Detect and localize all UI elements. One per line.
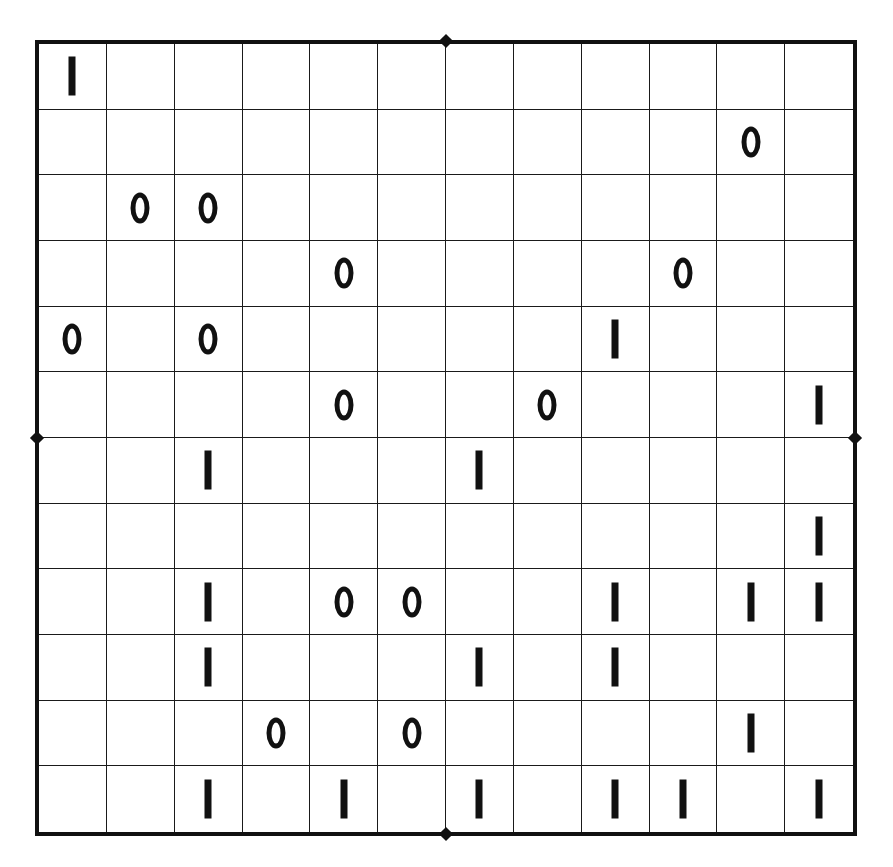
grid-cell[interactable] [378,307,446,373]
grid-cell[interactable]: 0 [378,569,446,635]
grid-cell[interactable] [446,44,514,110]
grid-cell[interactable] [310,175,378,241]
grid-cell[interactable] [582,438,650,504]
grid-cell[interactable] [243,766,311,832]
grid-cell[interactable]: 1 [446,438,514,504]
grid-cell[interactable] [378,504,446,570]
grid-cell[interactable] [39,766,107,832]
grid-cell[interactable]: 1 [446,635,514,701]
grid-cell[interactable] [717,307,785,373]
grid-cell[interactable] [650,175,718,241]
grid-cell[interactable] [378,372,446,438]
grid-cell[interactable] [378,175,446,241]
grid-cell[interactable] [785,175,853,241]
grid-cell[interactable] [310,504,378,570]
grid-cell[interactable] [514,175,582,241]
grid-cell[interactable] [717,504,785,570]
grid-cell[interactable] [107,504,175,570]
grid-cell[interactable]: 1 [582,766,650,832]
grid-cell[interactable] [243,44,311,110]
grid-cell[interactable]: 0 [310,241,378,307]
grid-cell[interactable] [175,504,243,570]
grid-cell[interactable] [39,110,107,176]
grid-cell[interactable] [310,438,378,504]
grid-cell[interactable] [446,701,514,767]
grid-cell[interactable]: 1 [582,307,650,373]
grid-cell[interactable] [107,307,175,373]
grid-cell[interactable] [107,701,175,767]
grid-cell[interactable]: 0 [310,372,378,438]
grid-cell[interactable] [446,110,514,176]
grid-cell[interactable] [378,110,446,176]
grid-cell[interactable] [650,504,718,570]
grid-cell[interactable] [785,635,853,701]
grid-cell[interactable] [310,307,378,373]
grid-cell[interactable]: 0 [107,175,175,241]
grid-cell[interactable] [39,635,107,701]
grid-cell[interactable]: 1 [785,372,853,438]
grid-cell[interactable] [107,44,175,110]
grid-cell[interactable]: 0 [175,175,243,241]
grid-cell[interactable] [717,438,785,504]
grid-cell[interactable]: 1 [785,766,853,832]
grid-cell[interactable] [107,372,175,438]
grid-cell[interactable] [650,110,718,176]
grid-cell[interactable]: 1 [717,701,785,767]
grid-cell[interactable] [243,372,311,438]
grid-cell[interactable] [378,766,446,832]
grid-cell[interactable] [39,701,107,767]
grid-cell[interactable] [514,766,582,832]
grid-cell[interactable]: 0 [717,110,785,176]
grid-cell[interactable] [39,372,107,438]
grid-cell[interactable] [582,175,650,241]
grid-cell[interactable] [785,44,853,110]
grid-cell[interactable] [107,766,175,832]
grid-cell[interactable]: 1 [175,766,243,832]
grid-cell[interactable] [107,241,175,307]
grid-cell[interactable]: 0 [39,307,107,373]
grid-cell[interactable] [785,110,853,176]
grid-cell[interactable] [378,635,446,701]
grid-cell[interactable] [717,372,785,438]
grid-cell[interactable] [446,175,514,241]
grid-cell[interactable] [582,372,650,438]
grid-cell[interactable]: 1 [446,766,514,832]
grid-cell[interactable] [650,44,718,110]
grid-cell[interactable]: 1 [310,766,378,832]
grid-cell[interactable]: 1 [582,635,650,701]
grid-cell[interactable] [446,307,514,373]
grid-cell[interactable] [107,569,175,635]
grid-cell[interactable] [717,766,785,832]
grid-cell[interactable] [717,241,785,307]
grid-cell[interactable] [717,44,785,110]
grid-cell[interactable] [785,241,853,307]
grid-cell[interactable]: 1 [717,569,785,635]
grid-cell[interactable]: 1 [582,569,650,635]
grid-cell[interactable] [39,175,107,241]
grid-cell[interactable]: 0 [310,569,378,635]
grid-cell[interactable] [107,635,175,701]
grid-cell[interactable]: 0 [378,701,446,767]
grid-cell[interactable] [785,307,853,373]
grid-cell[interactable] [243,438,311,504]
grid-cell[interactable] [243,569,311,635]
grid-cell[interactable] [717,175,785,241]
grid-cell[interactable] [107,438,175,504]
grid-cell[interactable] [650,372,718,438]
grid-cell[interactable] [514,241,582,307]
grid-cell[interactable]: 0 [243,701,311,767]
grid-cell[interactable] [243,241,311,307]
grid-cell[interactable] [175,241,243,307]
grid-cell[interactable] [514,701,582,767]
grid-cell[interactable] [514,569,582,635]
grid-cell[interactable] [514,635,582,701]
grid-cell[interactable]: 0 [514,372,582,438]
grid-cell[interactable] [650,635,718,701]
grid-cell[interactable] [650,438,718,504]
grid-cell[interactable] [310,701,378,767]
grid-cell[interactable] [310,110,378,176]
grid-cell[interactable] [378,438,446,504]
grid-cell[interactable] [310,44,378,110]
grid-cell[interactable] [175,701,243,767]
grid-cell[interactable] [378,241,446,307]
